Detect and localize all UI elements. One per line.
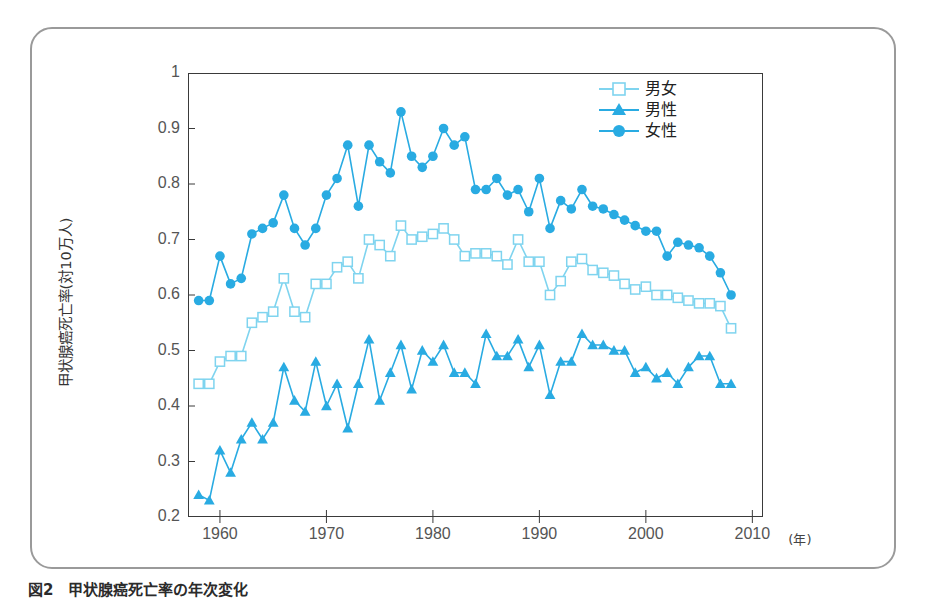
data-point: [290, 307, 299, 316]
data-point: [577, 254, 586, 263]
data-point: [268, 417, 279, 427]
data-point: [716, 302, 725, 311]
data-point: [311, 224, 321, 234]
data-point: [342, 423, 353, 433]
x-tick-label: 1990: [504, 525, 574, 543]
data-point: [193, 489, 204, 499]
figure-page: 甲状腺癌死亡率(対10万人) 0.20.30.40.50.60.70.80.91…: [0, 0, 931, 602]
data-point: [695, 299, 704, 308]
data-point: [567, 204, 577, 214]
data-point: [620, 279, 629, 288]
data-point: [428, 151, 438, 161]
data-point: [481, 185, 491, 195]
data-point: [588, 201, 598, 211]
data-point: [726, 324, 735, 333]
y-axis-title: 甲状腺癌死亡率(対10万人): [54, 153, 75, 453]
data-point: [662, 251, 672, 261]
data-point: [278, 362, 289, 372]
data-point: [407, 151, 417, 161]
data-point: [673, 293, 682, 302]
data-point: [503, 260, 512, 269]
data-point: [236, 434, 247, 444]
legend-item-male[interactable]: 男性: [597, 99, 707, 120]
data-point: [460, 252, 469, 261]
series-男性: [193, 328, 736, 504]
data-point: [492, 174, 502, 184]
data-point: [577, 328, 588, 338]
data-point: [386, 252, 395, 261]
data-point: [332, 263, 341, 272]
data-point: [535, 257, 544, 266]
data-point: [237, 351, 246, 360]
data-point: [258, 313, 267, 322]
data-point: [567, 257, 576, 266]
data-point: [599, 268, 608, 277]
data-point: [609, 271, 618, 280]
data-point: [215, 445, 226, 455]
data-point: [684, 240, 694, 250]
data-point: [662, 367, 673, 377]
data-point: [301, 313, 310, 322]
data-point: [641, 282, 650, 291]
open-square-marker-icon: [597, 79, 641, 99]
filled-circle-marker-icon: [597, 121, 641, 141]
data-point: [545, 390, 556, 400]
y-tick-label: 0.8: [132, 174, 180, 192]
data-point: [513, 334, 524, 344]
y-tick-label: 0.9: [132, 119, 180, 137]
data-point: [279, 274, 288, 283]
data-point: [524, 257, 533, 266]
data-point: [663, 290, 672, 299]
x-tick-label: 2010: [717, 525, 787, 543]
data-point: [705, 299, 714, 308]
y-tick-label: 0.5: [132, 341, 180, 359]
data-point: [396, 340, 407, 350]
data-point: [354, 201, 364, 211]
data-point: [438, 340, 449, 350]
legend-label-female: 女性: [645, 123, 677, 139]
data-point: [226, 279, 236, 289]
data-point: [641, 226, 651, 236]
legend-label-male: 男性: [645, 102, 677, 118]
data-point: [257, 434, 268, 444]
data-point: [471, 185, 481, 195]
data-point: [205, 379, 214, 388]
data-point: [503, 190, 513, 200]
data-point: [225, 467, 236, 477]
data-point: [556, 196, 566, 206]
data-point: [534, 340, 545, 350]
data-point: [449, 140, 459, 150]
data-point: [311, 279, 320, 288]
y-tick-label: 0.2: [132, 507, 180, 525]
filled-triangle-marker-icon: [597, 100, 641, 120]
data-point: [513, 235, 522, 244]
data-point: [492, 252, 501, 261]
data-point: [556, 277, 565, 286]
legend-item-female[interactable]: 女性: [597, 120, 707, 141]
x-tick-label: 1960: [185, 525, 255, 543]
data-point: [460, 132, 470, 142]
data-point: [364, 140, 374, 150]
y-tick-label: 1: [132, 63, 180, 81]
data-point: [204, 495, 215, 505]
chart-legend: 男女 男性 女性: [597, 78, 707, 141]
data-point: [343, 140, 353, 150]
data-point: [407, 235, 416, 244]
figure-caption: 図2 甲状腺癌死亡率の年次変化: [28, 578, 248, 599]
data-point: [279, 190, 289, 200]
data-point: [236, 274, 246, 284]
data-point: [577, 185, 587, 195]
data-point: [684, 296, 693, 305]
data-point: [652, 226, 662, 236]
data-point: [631, 285, 640, 294]
data-point: [321, 401, 332, 411]
data-point: [269, 307, 278, 316]
data-point: [247, 318, 256, 327]
legend-item-both[interactable]: 男女: [597, 78, 707, 99]
data-point: [598, 204, 608, 214]
y-tick-label: 0.4: [132, 396, 180, 414]
series-男女: [194, 221, 736, 388]
data-point: [439, 124, 449, 134]
y-tick-label: 0.6: [132, 285, 180, 303]
data-point: [694, 243, 704, 253]
